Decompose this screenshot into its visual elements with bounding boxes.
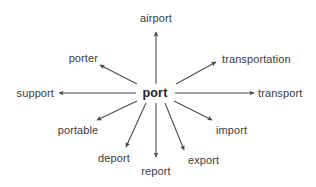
branch-label-import: import bbox=[216, 124, 247, 136]
arrow-portable bbox=[97, 101, 137, 120]
arrow-deport bbox=[126, 103, 146, 147]
word-web-diagram: port airporttransportationtransportimpor… bbox=[0, 0, 316, 187]
branch-label-porter: porter bbox=[69, 52, 98, 64]
center-word-port: port bbox=[142, 87, 167, 99]
branch-label-report: report bbox=[141, 165, 170, 177]
arrow-import bbox=[174, 101, 212, 120]
branch-label-transportation: transportation bbox=[222, 53, 291, 65]
branch-label-portable: portable bbox=[58, 124, 99, 136]
arrow-export bbox=[165, 103, 184, 150]
arrow-porter bbox=[100, 65, 137, 84]
branch-label-transport: transport bbox=[258, 87, 302, 99]
branch-label-deport: deport bbox=[98, 152, 130, 164]
branch-label-airport: airport bbox=[140, 12, 172, 24]
branch-label-export: export bbox=[188, 154, 219, 166]
branch-label-support: support bbox=[17, 87, 54, 99]
arrow-transportation bbox=[176, 62, 216, 84]
